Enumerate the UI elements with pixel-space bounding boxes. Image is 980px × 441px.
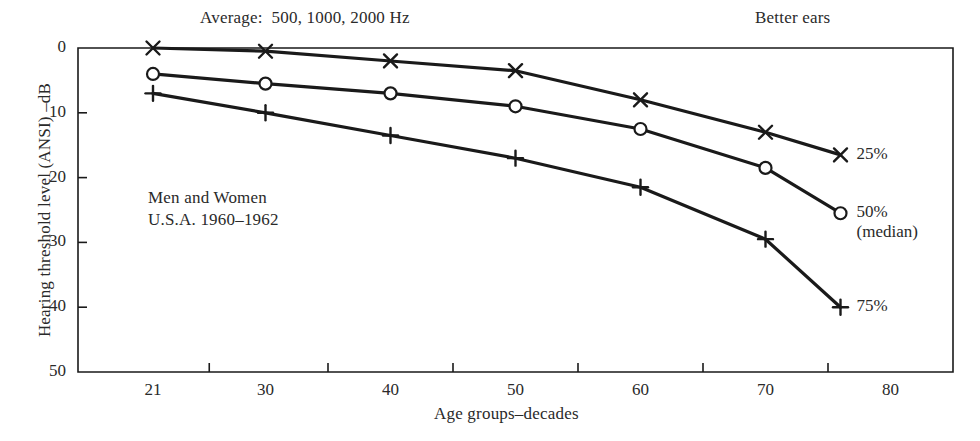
data-point-marker [260,78,272,90]
y-tick-label: 10 [26,102,66,122]
x-tick-label: 21 [123,380,183,400]
y-tick-label: 0 [26,37,66,57]
data-point-marker [635,123,647,135]
series-25pct [147,42,848,162]
series-label-75pct: 75% [857,296,888,316]
series-line-50pct [153,74,841,213]
series-50pct [147,68,847,219]
x-tick-label: 40 [361,380,421,400]
series-75pct [146,86,849,315]
plot-area [0,0,980,441]
data-point-marker [510,100,522,112]
y-tick-label: 30 [26,231,66,251]
series-label-50pct: 50% (median) [857,202,918,242]
axes-frame [78,48,953,372]
data-point-marker [760,162,772,174]
x-tick-label: 50 [486,380,546,400]
series-label-25pct: 25% [857,144,888,164]
y-tick-label: 50 [26,361,66,381]
x-tick-label: 60 [611,380,671,400]
hearing-threshold-figure: Average: 500, 1000, 2000 Hz Better ears … [0,0,980,441]
y-tick-label: 40 [26,296,66,316]
data-point-marker [385,87,397,99]
y-tick-label: 20 [26,167,66,187]
x-tick-label: 80 [861,380,921,400]
data-point-marker [835,207,847,219]
x-tick-label: 70 [736,380,796,400]
data-point-marker [147,68,159,80]
series-line-25pct [153,48,841,155]
x-tick-label: 30 [236,380,296,400]
